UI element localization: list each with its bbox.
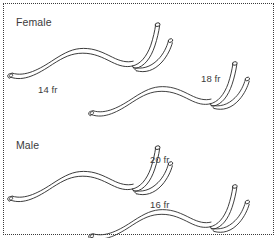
catheter-20fr — [8, 145, 174, 201]
group-label-male: Male — [16, 140, 39, 151]
size-label-20fr: 20 fr — [150, 155, 170, 165]
catheter-16fr — [89, 184, 250, 238]
size-label-14fr: 14 fr — [38, 85, 58, 95]
catheter-illustration-canvas — [0, 0, 277, 238]
size-label-18fr: 18 fr — [201, 74, 221, 84]
catheter-size-figure: Female Male 14 fr 18 fr 20 fr 16 fr — [0, 0, 277, 238]
catheter-14fr — [8, 22, 174, 78]
size-label-16fr: 16 fr — [150, 200, 170, 210]
catheter-18fr — [89, 61, 250, 116]
group-label-female: Female — [16, 17, 52, 28]
